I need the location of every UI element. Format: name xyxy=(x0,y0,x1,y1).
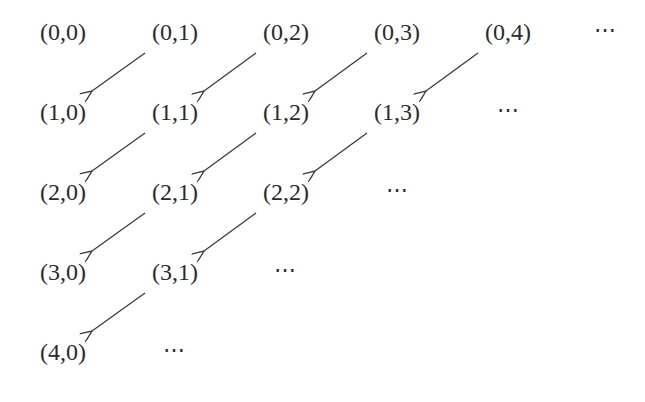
arrow xyxy=(204,133,256,171)
arrow xyxy=(204,213,256,251)
arrow xyxy=(92,133,145,171)
arrow xyxy=(92,213,145,251)
pair-node: (2,2) xyxy=(263,180,309,204)
ellipsis: ⋯ xyxy=(386,179,410,201)
diagonal-enumeration-diagram: (0,0) (0,1) (0,2) (0,3) (0,4) ⋯ (1,0) (1… xyxy=(0,0,645,402)
ellipsis: ⋯ xyxy=(594,19,618,41)
pair-node: (0,0) xyxy=(40,20,86,44)
pair-node: (0,4) xyxy=(485,20,531,44)
pair-node: (2,0) xyxy=(40,180,86,204)
pair-node: (1,0) xyxy=(40,100,86,124)
pair-node: (1,2) xyxy=(263,100,309,124)
pair-node: (3,0) xyxy=(40,260,86,284)
arrow xyxy=(92,293,145,331)
arrow xyxy=(92,53,145,91)
pair-node: (1,1) xyxy=(152,100,198,124)
pair-node: (4,0) xyxy=(40,340,86,364)
ellipsis: ⋯ xyxy=(274,259,298,281)
arrow xyxy=(204,53,256,91)
pair-node: (2,1) xyxy=(152,180,198,204)
arrow-layer xyxy=(0,0,645,402)
pair-node: (0,3) xyxy=(374,20,420,44)
pair-node: (3,1) xyxy=(152,260,198,284)
arrow xyxy=(315,133,367,171)
pair-node: (0,1) xyxy=(152,20,198,44)
pair-node: (0,2) xyxy=(263,20,309,44)
pair-node: (1,3) xyxy=(374,100,420,124)
arrow xyxy=(315,53,367,91)
ellipsis: ⋯ xyxy=(497,99,521,121)
arrow xyxy=(426,53,478,91)
ellipsis: ⋯ xyxy=(163,339,187,361)
